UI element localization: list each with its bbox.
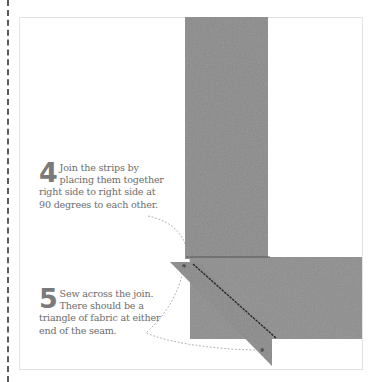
step-4-text: Join the strips by placing them together… <box>39 162 164 210</box>
vertical-fabric-strip <box>185 17 268 259</box>
step-4-number: 4 <box>39 163 58 183</box>
step-4-caption: 4Join the strips by placing them togethe… <box>39 162 164 211</box>
leader-line-step4 <box>148 216 190 262</box>
step-5-caption: 5Sew across the join. There should be a … <box>39 288 164 337</box>
step-5-number: 5 <box>39 289 58 309</box>
